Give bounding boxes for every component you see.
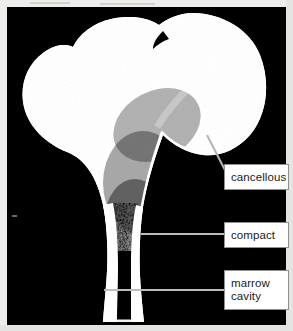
scan-margin-top	[0, 0, 293, 7]
scan-margin-bottom	[0, 325, 293, 331]
scan-speck	[30, 2, 70, 4]
femur-section-figure: cancellous compact marrow cavity	[0, 0, 293, 331]
callout-compact[interactable]: compact	[224, 222, 289, 248]
scan-speck	[100, 3, 155, 5]
callout-marrow-cavity-line-1: marrow	[231, 277, 288, 290]
callout-marrow-cavity-line-2: cavity	[231, 290, 288, 303]
callout-marrow-cavity[interactable]: marrow cavity	[224, 270, 289, 310]
callout-cancellous[interactable]: cancellous	[224, 164, 289, 190]
callout-cancellous-line-1: cancellous	[231, 171, 288, 184]
callout-compact-line-1: compact	[231, 229, 288, 242]
scan-margin-left	[0, 0, 7, 331]
